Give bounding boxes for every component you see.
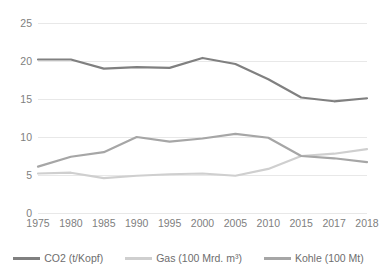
x-axis-tick-label: 2000 [191, 218, 214, 229]
legend-item[interactable]: Gas (100 Mrd. m³) [125, 253, 242, 264]
x-axis-tick-label: 1985 [92, 218, 115, 229]
chart-legend: CO2 (t/Kopf)Gas (100 Mrd. m³)Kohle (100 … [0, 248, 377, 268]
x-axis-tick-label: 2005 [224, 218, 247, 229]
x-axis-tick-label: 2015 [290, 218, 313, 229]
gridline [38, 213, 367, 214]
legend-item-label: CO2 (t/Kopf) [44, 253, 103, 264]
legend-item-label: Kohle (100 Mt) [295, 253, 364, 264]
x-axis-tick-label: 2018 [355, 218, 378, 229]
legend-item[interactable]: CO2 (t/Kopf) [13, 253, 103, 264]
series-container [38, 23, 367, 213]
series-line [38, 58, 367, 101]
x-axis-tick-label: 1995 [158, 218, 181, 229]
y-axis-tick-label: 10 [20, 132, 32, 143]
legend-line-icon [264, 257, 291, 260]
plot-area [38, 23, 367, 213]
x-axis-tick-label: 1980 [59, 218, 82, 229]
legend-line-icon [125, 257, 152, 260]
x-axis-tick-label: 1975 [26, 218, 49, 229]
legend-item[interactable]: Kohle (100 Mt) [264, 253, 364, 264]
y-axis-tick-label: 25 [20, 18, 32, 29]
x-axis-tick-label: 2010 [257, 218, 280, 229]
legend-item-label: Gas (100 Mrd. m³) [156, 253, 242, 264]
y-axis-tick-label: 5 [26, 170, 32, 181]
legend-line-icon [13, 257, 40, 260]
y-axis-tick-label: 20 [20, 56, 32, 67]
series-line [38, 134, 367, 167]
x-axis-tick-label: 1990 [125, 218, 148, 229]
x-axis-tick-label: 2017 [322, 218, 345, 229]
y-axis-tick-label: 15 [20, 94, 32, 105]
x-axis: 1975198019851990199520002005201020152017… [38, 218, 367, 232]
y-axis: 0510152025 [0, 23, 32, 213]
